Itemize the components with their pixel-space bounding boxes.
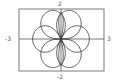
- y-max-label: 2: [58, 1, 62, 7]
- polar-plot: [0, 0, 113, 82]
- y-min-label: -2: [57, 74, 63, 80]
- x-max-label: 3: [107, 36, 111, 42]
- x-min-label: -3: [5, 36, 11, 42]
